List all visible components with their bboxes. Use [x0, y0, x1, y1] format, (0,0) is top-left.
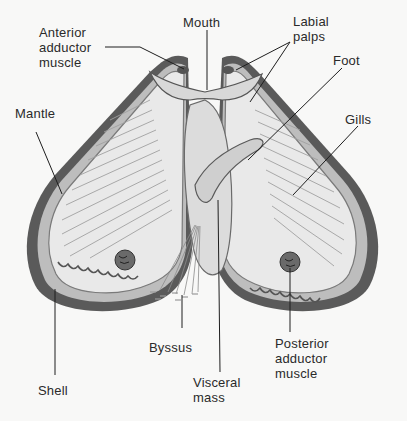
label-foot: Foot	[333, 53, 360, 68]
label-labial-palps: Labial palps	[293, 14, 329, 44]
label-byssus: Byssus	[149, 340, 192, 355]
diagram-canvas: Anterior adductor muscle Mouth Labial pa…	[0, 0, 407, 421]
label-mouth: Mouth	[183, 15, 220, 30]
label-posterior-adductor-muscle: Posterior adductor muscle	[275, 336, 329, 381]
label-gills: Gills	[345, 112, 371, 127]
label-anterior-adductor-muscle: Anterior adductor muscle	[39, 25, 91, 70]
label-shell: Shell	[38, 383, 68, 398]
label-visceral-mass: Visceral mass	[193, 375, 241, 405]
label-mantle: Mantle	[15, 106, 55, 121]
